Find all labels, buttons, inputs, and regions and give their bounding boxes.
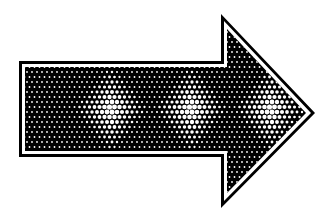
op-art-arrow-illustration xyxy=(0,0,335,215)
checker-pattern xyxy=(20,10,320,210)
